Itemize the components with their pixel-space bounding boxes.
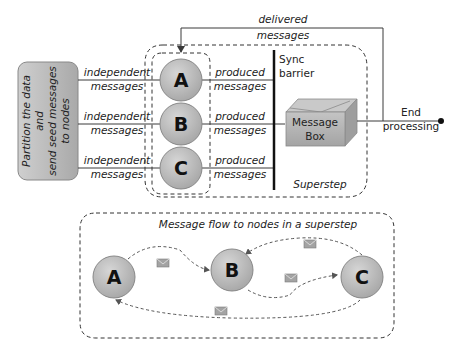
flow-node-a: A: [93, 256, 135, 298]
flow-node-b: B: [211, 249, 253, 291]
partition-box: Partition the data and send seed message…: [18, 62, 78, 180]
end-label-2: processing: [383, 120, 440, 132]
flow-node-c-label: C: [355, 266, 369, 288]
node-b-label: B: [174, 113, 188, 135]
flow-node-a-label: A: [107, 266, 122, 288]
superstep-label: Superstep: [293, 178, 347, 190]
output-label-c-2: messages: [214, 168, 267, 180]
message-box-line-2: Box: [305, 130, 325, 142]
output-label-a-2: messages: [214, 80, 267, 92]
input-label-a-2: messages: [91, 80, 144, 92]
node-c-label: C: [174, 157, 188, 179]
end-label-1: End: [401, 106, 421, 118]
partition-line-4: to nodes: [59, 98, 71, 144]
output-label-b-2: messages: [214, 124, 267, 136]
node-a: A: [160, 59, 202, 101]
input-label-b-2: messages: [91, 124, 144, 136]
sync-barrier-line-1: Sync: [279, 53, 305, 65]
message-flow-panel: Message flow to nodes in a superstep A: [80, 213, 394, 338]
superstep-diagram: Partition the data and send seed message…: [0, 0, 462, 355]
message-box: Message Box: [286, 99, 357, 146]
message-box-line-1: Message: [292, 116, 338, 128]
feedback-label-2: messages: [257, 29, 310, 41]
output-label-a-1: produced: [214, 66, 265, 78]
envelope-icon: [304, 240, 316, 248]
flow-panel-title: Message flow to nodes in a superstep: [159, 218, 358, 230]
input-label-c-2: messages: [91, 168, 144, 180]
node-b: B: [160, 103, 202, 145]
node-a-label: A: [174, 69, 189, 91]
envelope-icon: [157, 259, 169, 267]
input-label-a-1: independent: [84, 66, 151, 78]
input-edges: independent messages independent message…: [78, 66, 160, 180]
output-edges: produced messages produced messages prod…: [202, 66, 285, 180]
feedback-label-1: delivered: [258, 13, 307, 25]
input-label-c-1: independent: [84, 154, 151, 166]
partition-line-2: and: [33, 111, 45, 131]
edge-c-to-a: [116, 300, 360, 318]
flow-node-b-label: B: [225, 259, 239, 281]
input-label-b-1: independent: [84, 110, 151, 122]
partition-line-1: Partition the data: [20, 75, 32, 167]
flow-node-c: C: [341, 256, 383, 298]
output-label-c-1: produced: [214, 154, 265, 166]
partition-line-3: send seed messages: [46, 66, 58, 176]
envelope-icon: [285, 274, 297, 282]
output-label-b-1: produced: [214, 110, 265, 122]
envelope-icon: [215, 307, 227, 315]
node-c: C: [160, 147, 202, 189]
sync-barrier-line-2: barrier: [279, 67, 315, 79]
